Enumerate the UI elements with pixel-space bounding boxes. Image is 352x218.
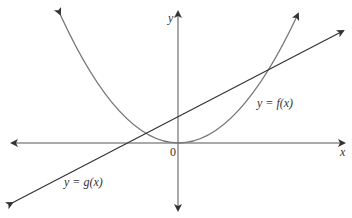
- origin-label: 0: [170, 145, 176, 160]
- g-line-label: y = g(x): [64, 175, 103, 190]
- y-axis-label: y: [168, 11, 173, 26]
- x-axis-label: x: [340, 145, 345, 160]
- f-curve-label: y = f(x): [257, 96, 293, 111]
- graph-canvas: [0, 0, 352, 218]
- parabola-f-curve: [60, 14, 298, 143]
